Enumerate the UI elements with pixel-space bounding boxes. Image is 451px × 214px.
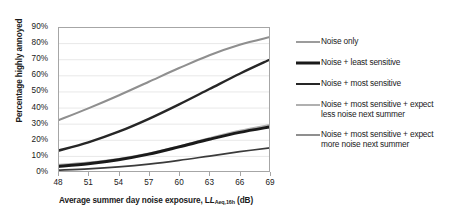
x-tick-mark	[149, 172, 150, 176]
plot-area	[58, 27, 270, 172]
legend-item[interactable]: Noise only	[296, 36, 448, 48]
legend-item[interactable]: Noise + most sensitive + expectmore nois…	[296, 129, 448, 150]
x-tick-mark	[209, 172, 210, 176]
legend-label-line2: less noise next summer	[321, 109, 433, 119]
legend-item[interactable]: Noise + most sensitive	[296, 78, 448, 90]
x-tick-mark	[179, 172, 180, 176]
legend-label: Noise + most sensitive + expectmore nois…	[321, 129, 433, 150]
legend-label-line1: Noise + most sensitive + expect	[321, 99, 433, 109]
x-tick-label: 57	[139, 178, 159, 187]
legend-label-line2: more noise next summer	[321, 139, 433, 149]
legend-line-icon	[296, 99, 320, 111]
series-line	[58, 127, 270, 167]
x-axis-title-main: Average summer day noise exposure, L	[59, 196, 210, 205]
legend-label: Noise + least sensitive	[321, 57, 400, 67]
legend-label: Noise only	[321, 36, 358, 46]
x-tick-label: 60	[169, 178, 189, 187]
x-tick-label: 51	[78, 178, 98, 187]
legend-line-icon	[296, 57, 320, 69]
x-axis-title: Average summer day noise exposure, LLAeq…	[38, 196, 274, 205]
y-tick-label: 50%	[22, 86, 48, 95]
y-tick-label: 70%	[22, 54, 48, 63]
x-tick-mark	[240, 172, 241, 176]
x-tick-mark	[88, 172, 89, 176]
x-tick-label: 66	[230, 178, 250, 187]
legend-line-icon	[296, 78, 320, 90]
legend-item[interactable]: Noise + least sensitive	[296, 57, 448, 69]
chart-legend: Noise onlyNoise + least sensitiveNoise +…	[296, 36, 448, 159]
x-axis-title-subscript: Aeq,16h	[215, 199, 235, 205]
plot-svg	[58, 27, 270, 172]
chart-figure: Percentage highly annoyed 0%10%20%30%40%…	[0, 0, 451, 214]
x-tick-label: 48	[48, 178, 68, 187]
x-tick-mark	[58, 172, 59, 176]
series-line	[58, 60, 270, 151]
y-tick-label: 30%	[22, 119, 48, 128]
x-axis-title-unit: (dB)	[235, 196, 253, 205]
x-tick-label: 63	[199, 178, 219, 187]
x-tick-mark	[119, 172, 120, 176]
y-tick-label: 0%	[22, 167, 48, 176]
legend-line-icon	[296, 129, 320, 141]
legend-label-line1: Noise + most sensitive + expect	[321, 129, 433, 139]
y-tick-label: 80%	[22, 38, 48, 47]
legend-label: Noise + most sensitive + expectless nois…	[321, 99, 433, 120]
y-tick-label: 10%	[22, 151, 48, 160]
y-tick-label: 90%	[22, 22, 48, 31]
legend-item[interactable]: Noise + most sensitive + expectless nois…	[296, 99, 448, 120]
legend-line-icon	[296, 36, 320, 48]
x-tick-label: 54	[109, 178, 129, 187]
series-lines	[58, 37, 270, 170]
y-tick-label: 20%	[22, 135, 48, 144]
x-tick-mark	[270, 172, 271, 176]
y-tick-label: 40%	[22, 103, 48, 112]
y-tick-label: 60%	[22, 70, 48, 79]
x-tick-label: 69	[260, 178, 280, 187]
legend-label: Noise + most sensitive	[321, 78, 401, 88]
x-axis-title-symbol: L	[210, 196, 215, 205]
series-line	[58, 125, 270, 165]
